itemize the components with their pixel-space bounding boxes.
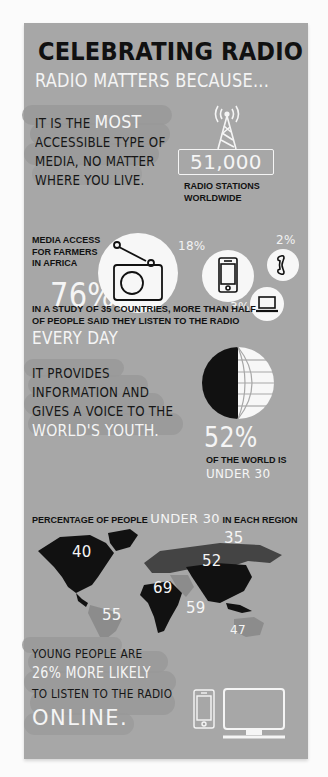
monitor-icon [222,687,286,741]
text-line: TO LISTEN TO THE RADIO [32,684,172,705]
online-highlight: ONLINE. [32,705,191,731]
infographic-panel: CELEBRATING RADIO RADIO MATTERS BECAUSE.… [24,23,308,759]
worlds-youth-highlight: WORLD'S YOUTH. [32,421,173,440]
globe-icon [202,346,274,420]
radio-icon [98,233,178,313]
every-day-highlight: EVERY DAY [32,327,118,348]
infographic-title: CELEBRATING RADIO [38,37,277,66]
stations-box: 51,000 [178,149,274,175]
text-line: OF PEOPLE SAID THEY LISTEN TO THE RADIO [32,315,256,327]
map-label-oceania: 47 [230,623,246,637]
telephone-icon [267,249,299,281]
telephone-percent: 2% [276,233,296,247]
stations-label: RADIO STATIONS WORLDWIDE [184,181,260,204]
study-text: IN A STUDY OF 35 COUNTRIES, MORE THAN HA… [32,303,256,327]
mobile-phone-icon [202,250,254,302]
text-line: WHERE YOU LIVE. [35,171,166,190]
text-line: GIVES A VOICE TO THE [32,402,173,421]
mobile-phone-icon [192,689,216,729]
telephone-circle [267,249,299,281]
under-30-highlight: UNDER 30 [206,467,270,481]
map-label-middle-east: 59 [186,599,206,617]
text-line: IN A STUDY OF 35 COUNTRIES, MORE THAN HA… [32,303,256,315]
accessible-text: IT IS THE MOST ACCESSIBLE TYPE OF MEDIA,… [35,112,166,190]
subtitle: RADIO MATTERS BECAUSE... [35,69,269,91]
text-line: IT IS THE [35,115,94,131]
map-label-africa: 69 [153,579,173,597]
text-line: INFORMATION AND [32,383,173,402]
world-map [20,507,310,637]
text-line: MEDIA, NO MATTER [35,152,166,171]
farmers-label: MEDIA ACCESS FOR FARMERS IN AFRICA [32,235,100,270]
radio-circle [98,233,178,313]
map-label-asia: 52 [202,552,222,570]
youth-text: IT PROVIDES INFORMATION AND GIVES A VOIC… [32,364,173,440]
map-label-south-america: 55 [102,606,122,624]
map-label-europe-russia: 35 [224,529,244,547]
label-line: RADIO STATIONS [184,181,260,193]
youth-percent: 52% [204,421,258,454]
stations-count: 51,000 [179,150,273,174]
label-line: IN AFRICA [32,258,100,270]
highlight-most: MOST [94,111,141,132]
radio-tower-icon [202,102,252,150]
online-text: YOUNG PEOPLE ARE 26% MORE LIKELY TO LIST… [32,645,191,731]
label-line: MEDIA ACCESS [32,235,100,247]
text-line: ACCESSIBLE TYPE OF [35,133,166,152]
label-line: FOR FARMERS [32,247,100,259]
youth-percent-label: OF THE WORLD IS [206,455,287,467]
more-likely-highlight: 26% MORE LIKELY [32,663,167,684]
map-label-north-america: 40 [72,543,92,561]
mobile-circle [202,250,254,302]
text-line: IT PROVIDES [32,364,173,383]
label-line: WORLDWIDE [184,193,260,205]
text-line: YOUNG PEOPLE ARE [32,645,172,663]
